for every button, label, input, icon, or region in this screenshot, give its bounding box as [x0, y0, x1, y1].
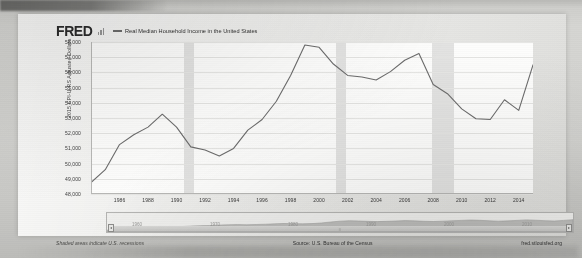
- chart-card: FRED Real Median Household Income in the…: [18, 14, 566, 236]
- source-note: Source: U.S. Bureau of the Census: [293, 240, 373, 246]
- x-tick-label: 1986: [114, 197, 126, 203]
- x-tick-label: 2012: [484, 197, 496, 203]
- x-tick-label: 2004: [370, 197, 382, 203]
- y-tick-label: 57,000: [41, 54, 81, 60]
- navigator-grip-icon[interactable]: ≡: [339, 227, 341, 232]
- range-navigator[interactable]: 196019701980199020002010 ◂ ▸ ≡: [106, 212, 574, 233]
- chart-footer: Shaded areas indicate U.S. recessions So…: [56, 238, 562, 248]
- y-axis-label: 2015 CPI-U-RS Adjusted Dollars: [66, 39, 72, 118]
- x-tick-label: 1988: [142, 197, 154, 203]
- y-tick-label: 58,000: [41, 39, 81, 45]
- y-tick-label: 54,000: [41, 100, 81, 106]
- chart-legend[interactable]: Real Median Household Income in the Unit…: [113, 28, 257, 34]
- x-tick-label: 2008: [427, 197, 439, 203]
- x-tick-label: 2002: [342, 197, 354, 203]
- x-tick-label: 1998: [285, 197, 297, 203]
- x-tick-label: 1992: [199, 197, 211, 203]
- y-tick-label: 50,000: [41, 161, 81, 167]
- x-tick-label: 2006: [399, 197, 411, 203]
- chart-header: FRED Real Median Household Income in the…: [56, 23, 257, 39]
- y-tick-label: 53,000: [41, 115, 81, 121]
- y-tick-label: 51,000: [41, 145, 81, 151]
- fred-url[interactable]: fred.stlouisfed.org: [521, 240, 562, 246]
- gridline: [91, 194, 533, 195]
- x-tick-label: 1994: [228, 197, 240, 203]
- recession-note: Shaded areas indicate U.S. recessions: [56, 240, 144, 246]
- x-tick-label: 2000: [313, 197, 325, 203]
- y-tick-label: 48,000: [41, 191, 81, 197]
- bar-chart-icon: [98, 27, 105, 35]
- x-tick-label: 2014: [513, 197, 525, 203]
- y-tick-label: 56,000: [41, 69, 81, 75]
- x-tick-label: 2010: [456, 197, 468, 203]
- x-tick-label: 1990: [171, 197, 183, 203]
- navigator-handle-right[interactable]: ▸: [566, 224, 572, 232]
- x-axis-ticks: 1986198819901992199419961998200020022004…: [91, 197, 533, 206]
- legend-color-swatch: [113, 30, 122, 32]
- y-tick-label: 49,000: [41, 176, 81, 182]
- legend-label: Real Median Household Income in the Unit…: [125, 28, 257, 34]
- y-tick-label: 55,000: [41, 85, 81, 91]
- fred-logo: FRED: [56, 24, 93, 38]
- scan-artifact-top: [0, 0, 168, 11]
- y-tick-label: 52,000: [41, 130, 81, 136]
- y-axis-ticks: 58,00057,00056,00055,00054,00053,00052,0…: [18, 42, 582, 194]
- x-tick-label: 1996: [256, 197, 268, 203]
